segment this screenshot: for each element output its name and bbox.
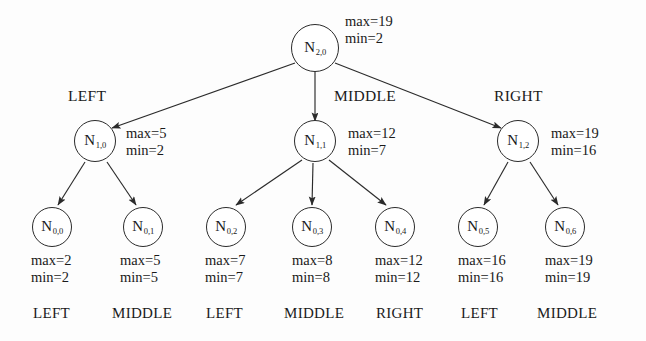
node-n0-1-max: max=5 — [120, 252, 160, 269]
tree-diagram-canvas: N2,0 max=19 min=2 N1,0 max=5 min=2 LEFT … — [0, 0, 646, 341]
node-n0-4-label: N0,4 — [384, 219, 406, 234]
node-root-max: max=19 — [345, 13, 393, 30]
node-n0-1[interactable]: N0,1 — [123, 207, 163, 247]
node-n1-2-min: min=16 — [551, 142, 599, 159]
node-n1-2-max: max=19 — [551, 125, 599, 142]
edge-n10-to-n01 — [107, 162, 136, 205]
node-n0-2-label: N0,2 — [215, 219, 237, 234]
node-n0-4[interactable]: N0,4 — [375, 207, 415, 247]
edge-n11-to-n03 — [312, 163, 313, 205]
edge-n10-to-n00 — [58, 162, 85, 205]
node-n0-0-min: min=2 — [31, 269, 71, 286]
node-n0-3-label: N0,3 — [301, 219, 323, 234]
node-n0-2[interactable]: N0,2 — [206, 207, 246, 247]
node-n0-0-max: max=2 — [31, 252, 71, 269]
node-n0-5-stats: max=16 min=16 — [458, 252, 506, 286]
leaf-label-n0-3: MIDDLE — [284, 306, 344, 321]
node-n0-6-stats: max=19 min=19 — [545, 252, 593, 286]
node-n0-2-max: max=7 — [205, 252, 245, 269]
node-n0-5-min: min=16 — [458, 269, 506, 286]
node-n1-1-max: max=12 — [348, 125, 396, 142]
node-n1-1-stats: max=12 min=7 — [348, 125, 396, 159]
edge-n12-to-n05 — [484, 162, 508, 205]
node-n1-1[interactable]: N1,1 — [294, 120, 336, 162]
node-n1-2[interactable]: N1,2 — [497, 120, 539, 162]
node-n1-2-label: N1,2 — [507, 133, 529, 148]
node-n0-1-label: N0,1 — [132, 219, 154, 234]
node-n1-1-min: min=7 — [348, 142, 396, 159]
node-n1-0[interactable]: N1,0 — [74, 120, 116, 162]
leaf-label-n0-0: LEFT — [33, 306, 70, 321]
node-n1-0-min: min=2 — [126, 142, 166, 159]
node-n0-3-min: min=8 — [292, 269, 332, 286]
node-n0-3[interactable]: N0,3 — [292, 207, 332, 247]
node-n0-4-min: min=12 — [375, 269, 423, 286]
node-n1-0-stats: max=5 min=2 — [126, 125, 166, 159]
edge-root-to-n10 — [112, 63, 295, 128]
node-root-stats: max=19 min=2 — [345, 13, 393, 47]
leaf-label-n0-1: MIDDLE — [112, 306, 172, 321]
edge-label-root-left: LEFT — [68, 88, 106, 104]
edge-n12-to-n06 — [530, 162, 558, 205]
leaf-label-n0-6: MIDDLE — [537, 306, 597, 321]
node-root-min: min=2 — [345, 30, 393, 47]
node-n1-0-label: N1,0 — [84, 133, 106, 148]
leaf-label-n0-5: LEFT — [461, 306, 498, 321]
node-n0-0-stats: max=2 min=2 — [31, 252, 71, 286]
node-n0-0[interactable]: N0,0 — [32, 207, 72, 247]
node-n0-0-label: N0,0 — [41, 219, 63, 234]
edge-n11-to-n04 — [329, 160, 386, 205]
node-root-n2-0[interactable]: N2,0 — [291, 24, 339, 72]
node-n0-5[interactable]: N0,5 — [458, 207, 498, 247]
node-n0-6[interactable]: N0,6 — [545, 207, 585, 247]
node-root-label: N2,0 — [304, 40, 326, 55]
node-n0-2-min: min=7 — [205, 269, 245, 286]
leaf-label-n0-4: RIGHT — [376, 306, 423, 321]
node-n0-3-max: max=8 — [292, 252, 332, 269]
node-n1-0-max: max=5 — [126, 125, 166, 142]
node-n0-1-min: min=5 — [120, 269, 160, 286]
edge-label-root-right: RIGHT — [494, 88, 543, 104]
node-n0-5-label: N0,5 — [467, 219, 489, 234]
node-n1-2-stats: max=19 min=16 — [551, 125, 599, 159]
node-n0-5-max: max=16 — [458, 252, 506, 269]
node-n0-6-max: max=19 — [545, 252, 593, 269]
node-n0-1-stats: max=5 min=5 — [120, 252, 160, 286]
edge-n11-to-n02 — [236, 160, 302, 205]
node-n0-2-stats: max=7 min=7 — [205, 252, 245, 286]
leaf-label-n0-2: LEFT — [206, 306, 243, 321]
edge-label-root-middle: MIDDLE — [334, 88, 396, 104]
node-n0-3-stats: max=8 min=8 — [292, 252, 332, 286]
node-n1-1-label: N1,1 — [304, 133, 326, 148]
node-n0-4-stats: max=12 min=12 — [375, 252, 423, 286]
node-n0-4-max: max=12 — [375, 252, 423, 269]
node-n0-6-label: N0,6 — [554, 219, 576, 234]
node-n0-6-min: min=19 — [545, 269, 593, 286]
